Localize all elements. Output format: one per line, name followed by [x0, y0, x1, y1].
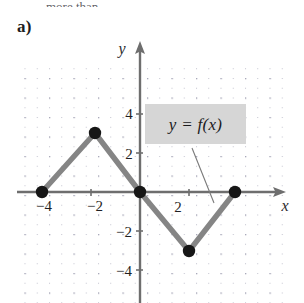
figure-root: more than a) [0, 0, 304, 303]
xtick-label-2: 2 [174, 199, 182, 215]
ytick-label-4: 4 [125, 106, 133, 122]
graph-plot: y x −4 −2 2 4 2 −2 −4 [0, 0, 304, 303]
ytick-label-neg2: −2 [116, 224, 132, 240]
data-point-neg4-0 [36, 186, 48, 198]
data-point-2-neg3 [183, 245, 195, 257]
ytick-label-neg4: −4 [116, 263, 132, 279]
xtick-label-neg4: −4 [36, 198, 52, 214]
xtick-label-neg2: −2 [87, 198, 103, 214]
data-point-0-0 [134, 186, 146, 198]
legend-label: y = f(x) [169, 116, 223, 133]
legend-callout-box: y = f(x) [145, 104, 246, 144]
x-axis-label: x [280, 197, 288, 214]
y-axis-label: y [116, 40, 126, 58]
data-point-4-0 [229, 186, 241, 198]
ytick-label-2: 2 [125, 146, 133, 162]
data-point-neg2-3 [89, 127, 101, 139]
